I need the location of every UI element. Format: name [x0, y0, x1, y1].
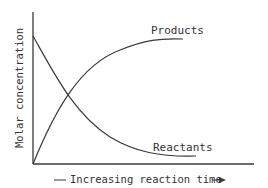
products-label: Products [151, 24, 204, 37]
reactants-curve [33, 36, 196, 156]
x-axis-label: Increasing reaction time [70, 173, 222, 185]
reactants-label: Reactants [153, 141, 213, 154]
reaction-kinetics-diagram: Products Reactants Molar concentration I… [0, 0, 268, 188]
y-axis-label: Molar concentration [13, 28, 25, 148]
